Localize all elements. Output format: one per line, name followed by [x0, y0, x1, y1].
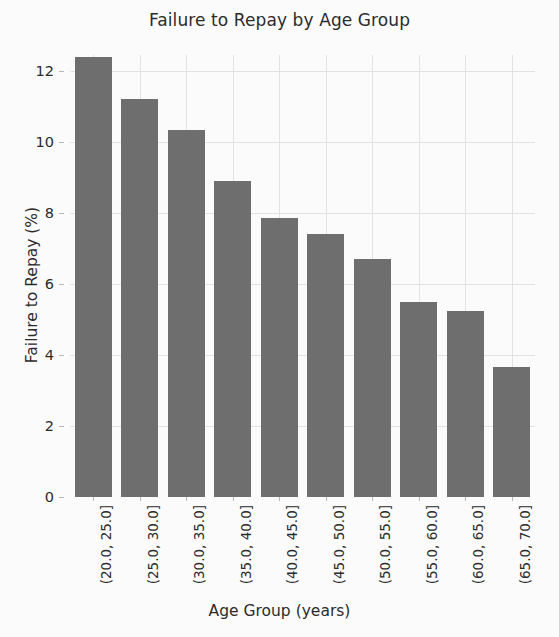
bar: [354, 259, 391, 497]
x-tick-mark: [233, 497, 234, 501]
y-tick-label: 6: [45, 276, 54, 292]
x-tick-label: (40.0, 45.0]: [284, 505, 300, 584]
x-axis-tick-labels: (20.0, 25.0](25.0, 30.0](30.0, 35.0](35.…: [70, 497, 535, 607]
x-tick-mark: [372, 497, 373, 501]
x-tick-group: (30.0, 35.0]: [163, 497, 210, 607]
bar: [75, 57, 112, 497]
x-tick-mark: [419, 497, 420, 501]
x-tick-mark: [279, 497, 280, 501]
y-tick-label: 2: [45, 418, 54, 434]
x-tick-label: (65.0, 70.0]: [517, 505, 533, 584]
bar-series: [70, 55, 535, 497]
x-tick-label: (45.0, 50.0]: [331, 505, 347, 584]
chart-figure: Failure to Repay by Age Group Failure to…: [0, 0, 559, 637]
x-tick-group: (65.0, 70.0]: [489, 497, 536, 607]
y-tick-mark: [59, 497, 64, 498]
x-tick-group: (60.0, 65.0]: [442, 497, 489, 607]
plot-area: [70, 55, 535, 497]
bar: [493, 367, 530, 497]
x-tick-mark: [140, 497, 141, 501]
x-tick-mark: [465, 497, 466, 501]
x-tick-group: (50.0, 55.0]: [349, 497, 396, 607]
x-tick-label: (60.0, 65.0]: [470, 505, 486, 584]
x-tick-label: (35.0, 40.0]: [238, 505, 254, 584]
x-tick-mark: [326, 497, 327, 501]
x-tick-mark: [512, 497, 513, 501]
x-tick-label: (55.0, 60.0]: [424, 505, 440, 584]
x-tick-label: (30.0, 35.0]: [191, 505, 207, 584]
x-tick-mark: [93, 497, 94, 501]
x-tick-label: (50.0, 55.0]: [377, 505, 393, 584]
y-tick-mark: [59, 355, 64, 356]
y-tick-mark: [59, 213, 64, 214]
x-tick-group: (25.0, 30.0]: [117, 497, 164, 607]
bar: [121, 99, 158, 497]
y-tick-label: 8: [45, 205, 54, 221]
x-tick-group: (40.0, 45.0]: [256, 497, 303, 607]
y-axis-tick-labels: 024681012: [0, 55, 64, 497]
bar: [214, 181, 251, 497]
bar: [168, 130, 205, 497]
y-tick-mark: [59, 71, 64, 72]
y-tick-mark: [59, 142, 64, 143]
x-tick-mark: [186, 497, 187, 501]
bar: [307, 234, 344, 497]
bar: [400, 302, 437, 497]
chart-title: Failure to Repay by Age Group: [0, 10, 559, 30]
x-axis-title: Age Group (years): [0, 602, 559, 620]
y-tick-mark: [59, 426, 64, 427]
bar: [261, 218, 298, 497]
bar: [447, 311, 484, 497]
x-tick-group: (20.0, 25.0]: [70, 497, 117, 607]
y-tick-label: 0: [45, 489, 54, 505]
x-tick-group: (35.0, 40.0]: [210, 497, 257, 607]
x-tick-label: (20.0, 25.0]: [98, 505, 114, 584]
x-tick-group: (55.0, 60.0]: [396, 497, 443, 607]
x-tick-group: (45.0, 50.0]: [303, 497, 350, 607]
x-tick-label: (25.0, 30.0]: [145, 505, 161, 584]
y-tick-label: 4: [45, 347, 54, 363]
y-tick-label: 10: [36, 134, 54, 150]
y-tick-mark: [59, 284, 64, 285]
y-tick-label: 12: [36, 63, 54, 79]
